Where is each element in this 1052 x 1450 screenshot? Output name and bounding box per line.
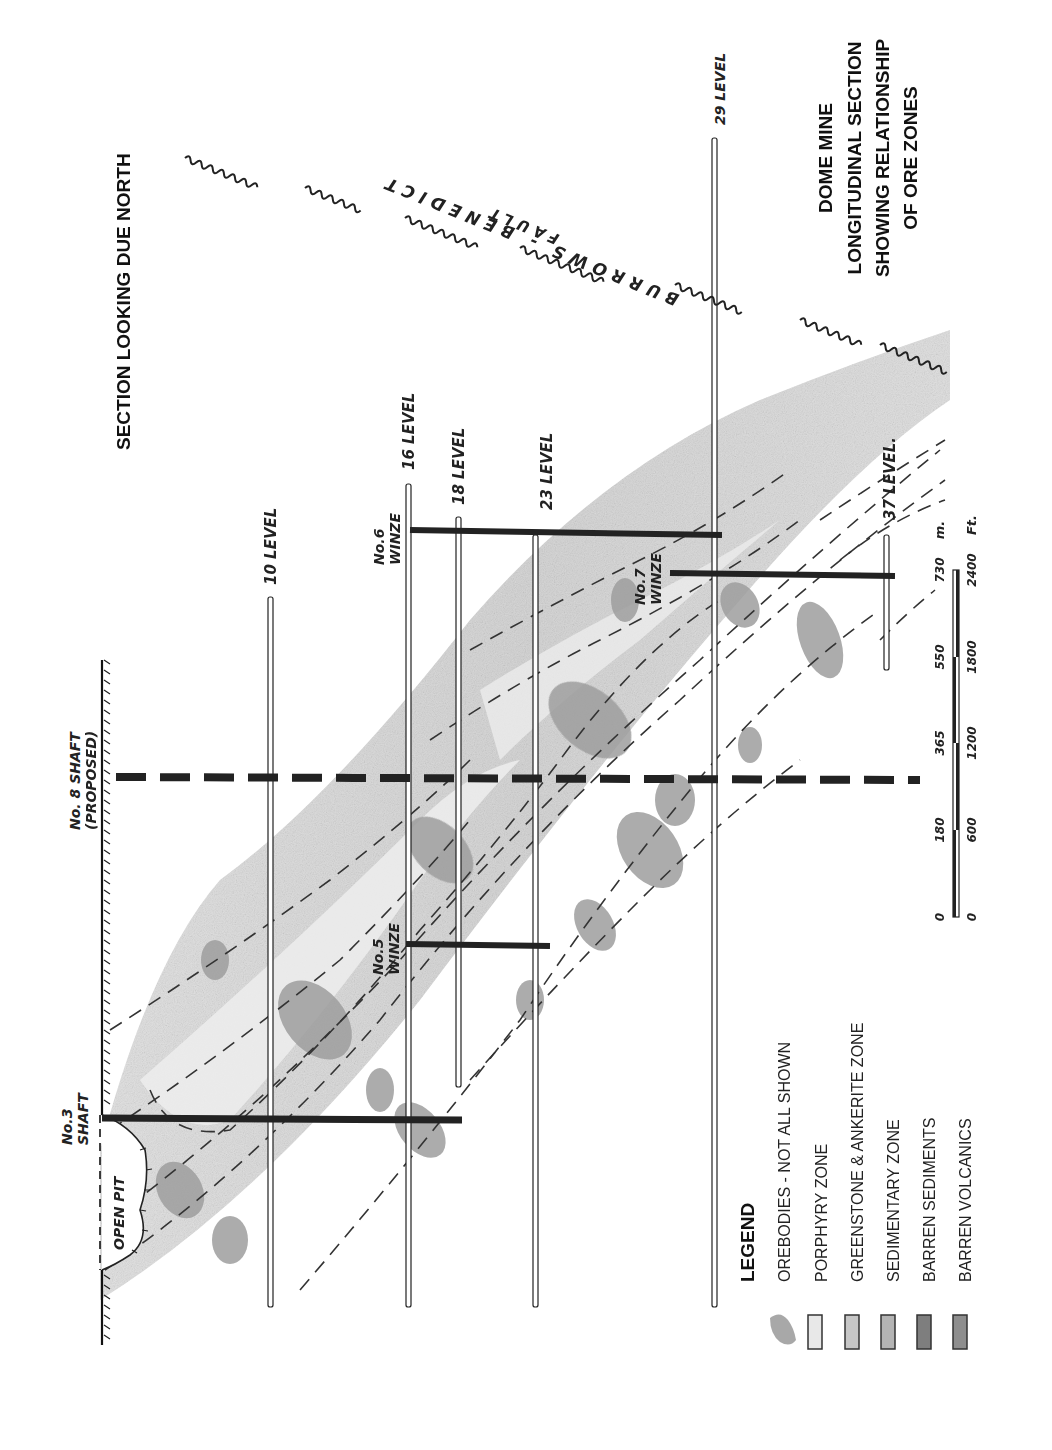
fault-labels: BURROWS - BENEDICT FAULT <box>377 171 681 309</box>
title-line-4: OF ORE ZONES <box>900 86 921 230</box>
level-16-label: 16 LEVEL <box>400 393 418 470</box>
level-29-drift <box>712 138 717 1307</box>
title-line-2: LONGITUDINAL SECTION <box>844 42 865 275</box>
legend-item-orebodies: OREBODIES - NOT ALL SHOWN <box>776 1042 793 1282</box>
legend-swatches <box>770 1314 967 1349</box>
no3-shaft-label-1: No.3 <box>59 1109 75 1145</box>
fault-label-1: BURROWS - BENEDICT <box>377 171 681 309</box>
section-label: SECTION LOOKING DUE NORTH <box>113 153 134 450</box>
scale-m-unit: m. <box>932 521 947 539</box>
level-16-drift <box>406 484 411 1307</box>
level-29-label: 29 LEVEL <box>712 53 728 125</box>
legend-swatch-barren-volcanics <box>953 1315 967 1349</box>
level-10-drift <box>268 597 273 1307</box>
legend: LEGEND OREBODIES - NOT ALL SHOWN PORPHYR… <box>737 1023 974 1282</box>
legend-swatch-greenstone <box>845 1315 859 1349</box>
scale-ft-0: 0 <box>965 913 979 921</box>
legend-swatch-barren-sediments <box>917 1315 931 1349</box>
level-37-label: 37 LEVEL. <box>881 437 899 520</box>
level-23-label: 23 LEVEL <box>538 433 556 510</box>
no5-winze <box>406 944 550 946</box>
legend-item-barren-sediments: BARREN SEDIMENTS <box>921 1118 938 1282</box>
scale-m-0: 0 <box>933 913 947 921</box>
scale-m-730: 730 <box>933 557 947 582</box>
level-37-drift <box>884 535 889 670</box>
level-23-drift <box>533 535 538 1307</box>
no7-winze-label-2: WINZE <box>648 552 664 605</box>
legend-title: LEGEND <box>737 1203 758 1282</box>
scale-bar <box>953 570 959 917</box>
scale-ft-1800: 1800 <box>965 640 979 673</box>
no6-winze-label-1: No.6 <box>371 528 387 565</box>
scale-ft-600: 600 <box>965 817 979 842</box>
scale-m-365: 365 <box>933 730 947 755</box>
legend-item-greenstone: GREENSTONE & ANKERITE ZONE <box>849 1023 866 1282</box>
no3-shaft <box>102 1118 462 1120</box>
legend-swatch-porphyry <box>808 1315 822 1349</box>
scale-m-180: 180 <box>933 817 947 842</box>
no7-winze-label-1: No.7 <box>632 568 648 605</box>
scale-ft-1200: 1200 <box>965 726 979 759</box>
legend-item-sedimentary: SEDIMENTARY ZONE <box>885 1119 902 1282</box>
scale-ft-unit: Ft. <box>964 515 979 535</box>
title-line-3: SHOWING RELATIONSHIP <box>872 39 893 278</box>
level-10-label: 10 LEVEL <box>262 508 280 585</box>
legend-swatch-orebodies <box>770 1314 796 1344</box>
section-looking-north: SECTION LOOKING DUE NORTH <box>113 153 134 450</box>
no5-winze-label-2: WINZE <box>386 922 402 975</box>
level-18-label: 18 LEVEL <box>450 428 468 505</box>
scale-ft-2400: 2400 <box>965 553 979 586</box>
scale-m-550: 550 <box>933 644 947 669</box>
title-line-1: DOME MINE <box>815 103 836 213</box>
open-pit-label: OPEN PIT <box>111 1175 127 1250</box>
legend-swatch-sedimentary <box>881 1315 895 1349</box>
no5-winze-label-1: No.5 <box>370 938 386 975</box>
no8-shaft-label-2: (PROPOSED) <box>83 731 99 830</box>
title-block: DOME MINE LONGITUDINAL SECTION SHOWING R… <box>815 39 921 278</box>
dome-mine-section-diagram: SECTION LOOKING DUE NORTH DOME MINE LONG… <box>0 0 1052 1450</box>
no3-shaft-label-2: SHAFT <box>75 1092 91 1145</box>
no8-shaft-label-1: No. 8 SHAFT <box>67 731 83 830</box>
no6-winze-label-2: WINZE <box>387 512 403 565</box>
legend-item-barren-volcanics: BARREN VOLCANICS <box>957 1118 974 1282</box>
level-18-drift <box>456 517 461 1087</box>
legend-item-porphyry: PORPHYRY ZONE <box>813 1144 830 1282</box>
no8-shaft-proposed <box>116 777 920 780</box>
no7-winze <box>670 573 895 576</box>
